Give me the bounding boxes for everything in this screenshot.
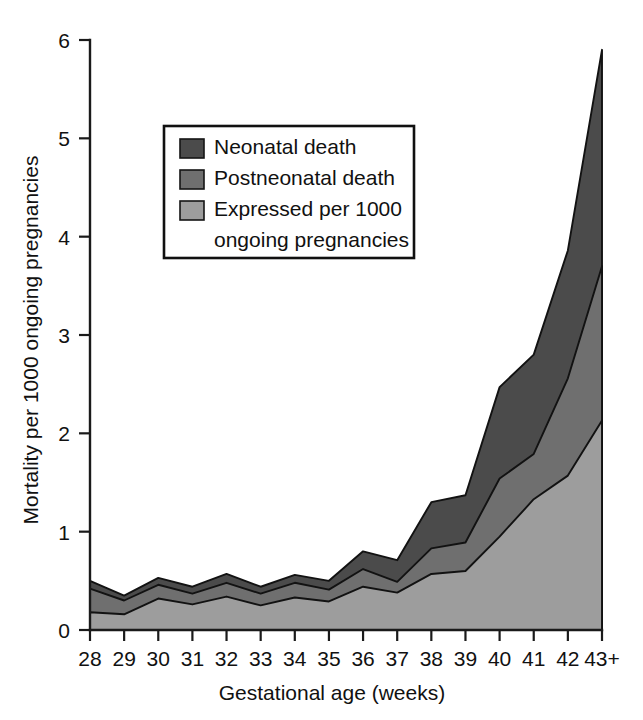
legend-label: Expressed per 1000 xyxy=(214,197,402,220)
x-tick-label: 35 xyxy=(317,647,340,670)
legend-swatch xyxy=(180,139,204,158)
x-tick-label: 40 xyxy=(488,647,511,670)
x-tick-label: 30 xyxy=(147,647,170,670)
x-tick-label: 38 xyxy=(420,647,443,670)
x-tick-label: 36 xyxy=(351,647,374,670)
chart-legend: Neonatal deathPostneonatal deathExpresse… xyxy=(164,126,414,258)
y-tick-label: 6 xyxy=(58,29,70,52)
stacked-area-chart: 0123456 28293031323334353637383940414243… xyxy=(0,0,643,720)
x-tick-label: 28 xyxy=(78,647,101,670)
y-tick-label: 2 xyxy=(58,422,70,445)
legend-swatch xyxy=(180,170,204,189)
legend-label: ongoing pregnancies xyxy=(214,228,409,251)
y-tick-label: 5 xyxy=(58,127,70,150)
chart-figure: 0123456 28293031323334353637383940414243… xyxy=(0,0,643,720)
legend-swatch xyxy=(180,201,204,220)
x-tick-label: 33 xyxy=(249,647,272,670)
x-tick-label: 29 xyxy=(112,647,135,670)
y-tick-label: 0 xyxy=(58,619,70,642)
y-tick-label: 3 xyxy=(58,324,70,347)
legend-label: Neonatal death xyxy=(214,135,356,158)
x-tick-label: 37 xyxy=(386,647,409,670)
x-tick-label: 42 xyxy=(556,647,579,670)
x-tick-label: 41 xyxy=(522,647,545,670)
x-tick-label: 32 xyxy=(215,647,238,670)
y-tick-label: 1 xyxy=(58,521,70,544)
y-axis-title: Mortality per 1000 ongoing pregnancies xyxy=(19,156,42,525)
x-tick-label: 39 xyxy=(454,647,477,670)
x-tick-label: 34 xyxy=(283,647,307,670)
x-tick-label: 43+ xyxy=(584,647,620,670)
y-tick-label: 4 xyxy=(58,226,70,249)
x-tick-label: 31 xyxy=(181,647,204,670)
x-axis-title: Gestational age (weeks) xyxy=(219,681,445,704)
legend-label: Postneonatal death xyxy=(214,166,395,189)
